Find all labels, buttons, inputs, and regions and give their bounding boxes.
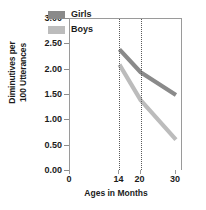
x-axis-tick-labels: 0142030: [69, 174, 182, 186]
x-tick-label: 30: [170, 174, 180, 184]
legend-item-boys: Boys: [48, 23, 93, 36]
x-axis-title: Ages in Months: [0, 188, 206, 198]
x-tick-label: 14: [113, 174, 123, 184]
y-tick-label: 0.50: [44, 140, 62, 150]
legend-label-boys: Boys: [71, 25, 93, 34]
y-tick-mark: [64, 43, 69, 44]
x-tick-label: 20: [135, 174, 145, 184]
x-tick-mark: [175, 170, 176, 174]
plot-area: [69, 18, 182, 170]
legend-label-girls: Girls: [71, 10, 92, 19]
x-tick-label: 0: [66, 174, 71, 184]
legend: Girls Boys: [48, 8, 93, 38]
y-axis-tick-labels: 0.000.501.001.502.002.503.00: [28, 18, 62, 170]
legend-swatch-boys: [48, 26, 65, 34]
y-tick-mark: [64, 69, 69, 70]
y-tick-label: 2.00: [44, 64, 62, 74]
x-tick-mark: [140, 170, 141, 174]
ref-line-20: [141, 19, 142, 170]
y-tick-mark: [64, 145, 69, 146]
y-tick-mark: [64, 18, 69, 19]
ref-line-14: [119, 19, 120, 170]
legend-item-girls: Girls: [48, 8, 93, 21]
series-lines: [70, 19, 182, 170]
legend-swatch-girls: [48, 11, 65, 19]
chart-container: Diminutives per 100 Utterances 0.000.501…: [0, 0, 206, 210]
y-tick-label: 1.00: [44, 114, 62, 124]
y-tick-label: 0.00: [44, 165, 62, 175]
x-tick-mark: [69, 170, 70, 174]
y-axis-title: Diminutives per 100 Utterances: [7, 13, 28, 133]
y-tick-mark: [64, 94, 69, 95]
series-line-girls: [119, 49, 176, 95]
y-tick-mark: [64, 119, 69, 120]
x-tick-mark: [118, 170, 119, 174]
y-tick-label: 2.50: [44, 38, 62, 48]
y-tick-label: 1.50: [44, 89, 62, 99]
